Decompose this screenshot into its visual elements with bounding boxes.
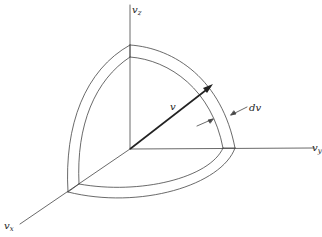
vy-label: vy: [312, 142, 322, 155]
vy-axis: [130, 148, 314, 149]
inner-shell: [79, 57, 223, 187]
vx-label: vx: [4, 220, 14, 233]
vz-label: vz: [132, 4, 142, 17]
shell-edge-left: [68, 184, 79, 192]
velocity-vector: [130, 84, 213, 149]
velocity-shell-diagram: vz vy vx v dv: [0, 0, 322, 237]
dv-label: dv: [249, 102, 261, 113]
vector-v-label: v: [170, 101, 176, 112]
